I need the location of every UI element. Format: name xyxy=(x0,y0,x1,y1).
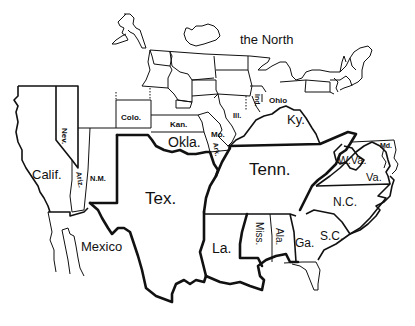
miss-ala-border xyxy=(270,214,272,262)
arkansas-east-border xyxy=(204,148,230,212)
civil-war-map: the North Nev. Calif. Ariz. N.M. Colo. K… xyxy=(0,0,415,326)
arizona-outline xyxy=(70,128,90,212)
label-kentucky: Ky. xyxy=(287,112,305,127)
label-missouri: Mo. xyxy=(211,130,225,139)
label-mississippi: Miss. xyxy=(254,222,265,245)
nevada-outline xyxy=(18,86,78,168)
label-north-carolina: N.C. xyxy=(333,195,357,209)
canada-coast-outline xyxy=(184,24,220,46)
california-outline xyxy=(14,86,50,212)
label-south-carolina: S.C. xyxy=(320,229,343,243)
label-arkansas: Ark. xyxy=(212,142,221,157)
label-ohio: Ohio xyxy=(269,96,287,105)
label-colorado: Colo. xyxy=(121,113,141,122)
louisiana-texas-border xyxy=(200,212,206,276)
tennessee-south-border xyxy=(204,214,296,216)
label-west-virginia: W.Va. xyxy=(338,154,367,166)
ga-fl-border xyxy=(284,262,320,290)
alaska-outline xyxy=(112,14,146,48)
label-maryland: Md. xyxy=(380,142,392,149)
louisiana-outline xyxy=(206,254,298,290)
new-mexico-texas-border xyxy=(90,135,117,203)
label-oklahoma: Okla. xyxy=(168,134,201,150)
label-tennessee: Tenn. xyxy=(249,160,291,179)
label-virginia: Va. xyxy=(366,171,382,183)
label-arizona: Ariz. xyxy=(74,171,86,189)
label-georgia: Ga. xyxy=(295,236,314,250)
label-texas: Tex. xyxy=(145,189,176,208)
label-kansas: Kan. xyxy=(170,120,187,129)
kentucky-outline xyxy=(230,106,320,146)
label-illinois: Ill. xyxy=(233,111,241,120)
label-california: Calif. xyxy=(32,167,62,182)
label-louisiana: La. xyxy=(212,240,231,256)
label-nevada: Nev. xyxy=(60,128,69,144)
us-mexico-border-west xyxy=(48,208,88,216)
label-alabama: Ala. xyxy=(274,228,285,245)
label-new-mexico: N.M. xyxy=(90,174,106,183)
colorado-dashed-top xyxy=(116,88,150,100)
label-the-north: the North xyxy=(240,32,293,47)
label-mexico: Mexico xyxy=(81,239,122,254)
label-indiana: Ind. xyxy=(254,94,261,106)
mexico-baja xyxy=(48,212,56,272)
